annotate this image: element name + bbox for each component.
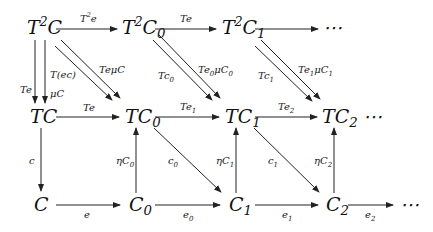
label-muC: μC [50, 88, 64, 99]
node-mid-ellipsis: ⋯ [363, 105, 382, 127]
arrow-TC1-C2 [254, 128, 319, 192]
node-C0: C0 [129, 193, 153, 218]
label-Te2: Te2 [278, 101, 295, 115]
node-C2: C2 [326, 193, 349, 218]
label-c: c [29, 155, 35, 166]
label-Te1muC1: Te1μC1 [298, 64, 333, 78]
label-Tc0: Tc0 [158, 70, 175, 84]
node-C: C [34, 193, 49, 215]
node-T2C1: T2C1 [222, 15, 266, 41]
node-TC: TC [30, 105, 58, 127]
label-etaC1: ηC1 [216, 155, 234, 169]
label-c1: c1 [268, 155, 278, 169]
label-Te-left: Te [20, 84, 32, 95]
arrow-T2C0-TC1-b [159, 35, 220, 98]
label-e2: e2 [365, 209, 376, 223]
label-T2e: T2e [80, 11, 97, 24]
node-T2C: T2C [27, 15, 63, 38]
node-bot-ellipsis: ⋯ [400, 193, 419, 215]
arrow-TC0-C1 [154, 128, 221, 192]
node-TC2: TC2 [322, 105, 358, 130]
label-Te1: Te1 [180, 101, 196, 115]
label-etaC0: ηC0 [116, 155, 135, 169]
node-C1: C1 [229, 193, 252, 218]
label-c0: c0 [168, 155, 179, 169]
label-Tc1: Tc1 [258, 70, 274, 84]
node-T2C0: T2C0 [122, 15, 166, 41]
label-Tec: T(ec) [50, 69, 76, 80]
label-TemuC: TeμC [99, 64, 125, 75]
label-e0: e0 [183, 209, 194, 223]
label-e1: e1 [282, 209, 292, 223]
label-etaC2: ηC2 [314, 155, 333, 169]
label-e: e [84, 209, 90, 220]
label-Te-top: Te [180, 13, 192, 24]
node-top-ellipsis: ⋯ [323, 16, 342, 38]
label-Te-mid: Te [83, 102, 95, 113]
label-Te0muC0: Te0μC0 [198, 64, 233, 78]
commutative-diagram: T2C T2C0 T2C1 ⋯ T2e Te TC TC0 TC1 TC2 ⋯ … [0, 0, 433, 232]
